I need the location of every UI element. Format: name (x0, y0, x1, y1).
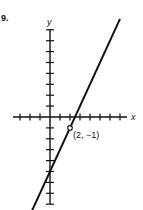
point-label: (2, −1) (73, 130, 99, 140)
data-line (32, 19, 120, 210)
y-axis-label: y (46, 17, 52, 27)
point-marker (68, 126, 73, 131)
x-axis-label: x (130, 112, 136, 122)
graph: (2, −1) y x (0, 0, 143, 210)
